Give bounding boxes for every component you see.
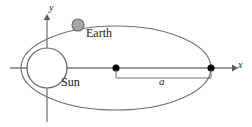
- sun-label: Sun: [61, 76, 80, 88]
- earth-circle: [72, 19, 84, 31]
- orbit-diagram-canvas: [0, 0, 252, 127]
- orbit-diagram-figure: Earth Sun x y a: [0, 0, 252, 127]
- y-axis-arrowhead: [44, 14, 51, 20]
- earth-label: Earth: [86, 27, 112, 39]
- semimajor-axis-label: a: [159, 76, 165, 87]
- y-axis-label: y: [49, 3, 53, 13]
- x-axis-label: x: [238, 60, 242, 70]
